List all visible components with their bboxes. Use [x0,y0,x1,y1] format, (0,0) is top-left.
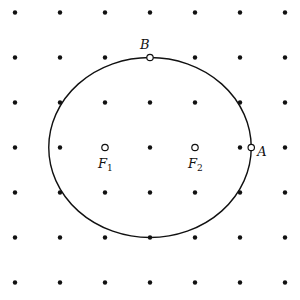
grid-dot [283,190,287,194]
grid-dot [13,55,17,59]
grid-dot [13,280,17,284]
grid-dot [238,10,242,14]
grid-dot [283,235,287,239]
grid-dot [58,145,62,149]
grid-dot [103,280,107,284]
grid-dot [13,10,17,14]
dot-grid [13,10,287,284]
grid-dot [283,145,287,149]
grid-dot [13,235,17,239]
point-f1-label: F1 [97,156,113,173]
grid-dot [103,10,107,14]
grid-dot [193,55,197,59]
grid-dot [283,55,287,59]
grid-dot [148,190,152,194]
grid-dot [238,280,242,284]
ellipse-diagram: BAF1F2 [0,0,300,300]
point-f2-subscript: 2 [197,163,203,173]
grid-dot [193,235,197,239]
grid-dot [193,190,197,194]
grid-dot [148,280,152,284]
grid-dot [283,280,287,284]
grid-dot [283,10,287,14]
point-f1-subscript: 1 [107,163,113,173]
grid-dot [283,100,287,104]
grid-dot [148,100,152,104]
point-b-marker [147,54,153,60]
grid-dot [238,145,242,149]
grid-dot [13,100,17,104]
point-a-label: A [256,144,266,159]
grid-dot [193,10,197,14]
grid-dot [103,100,107,104]
point-a-marker [248,144,254,150]
grid-dot [238,55,242,59]
grid-dot [193,100,197,104]
grid-dot [193,280,197,284]
grid-dot [148,10,152,14]
grid-dot [58,280,62,284]
grid-dot [103,55,107,59]
grid-dot [103,235,107,239]
grid-dot [103,190,107,194]
point-b-label: B [139,37,150,52]
grid-dot [238,235,242,239]
grid-dot [148,145,152,149]
point-f1-marker [102,144,108,150]
grid-dot [58,10,62,14]
grid-dot [58,55,62,59]
point-f2-marker [192,144,198,150]
grid-dot [13,190,17,194]
grid-dot [58,235,62,239]
grid-dot [13,145,17,149]
point-f2-label: F2 [187,156,203,173]
